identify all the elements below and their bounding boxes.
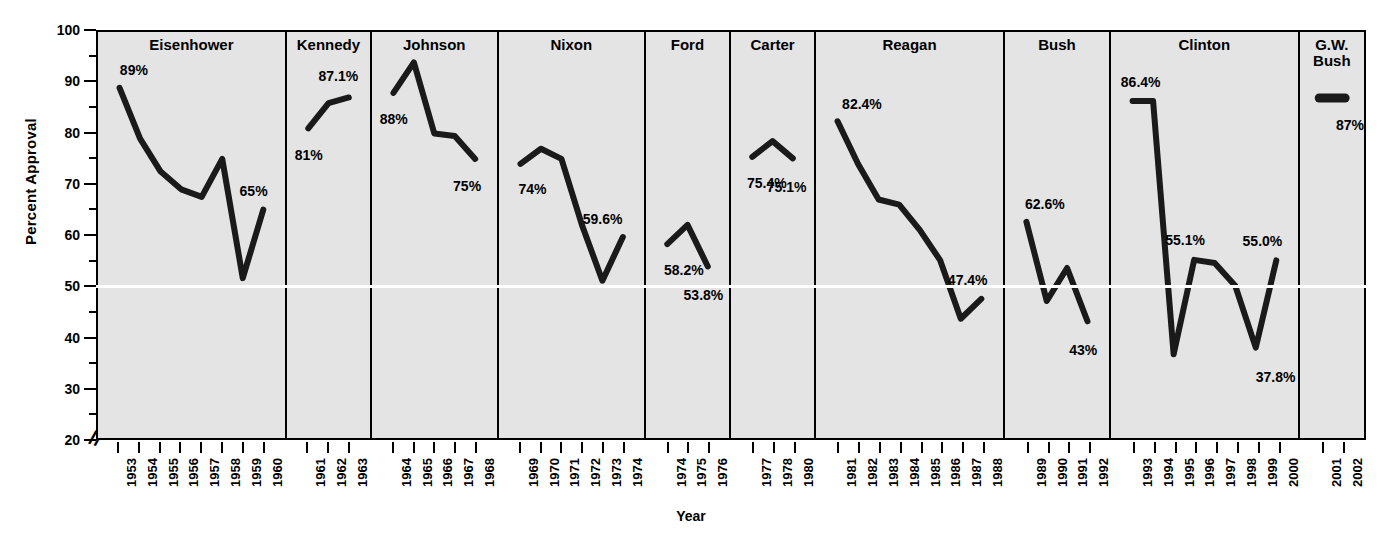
series-line — [372, 32, 497, 438]
x-tick — [983, 442, 985, 453]
panel-carter: Carter75.4%75.1% — [731, 32, 816, 438]
x-tick — [1175, 442, 1177, 453]
x-tick-label: 1982 — [865, 458, 880, 487]
y-tick-major — [84, 132, 96, 134]
y-tick-major — [84, 80, 96, 82]
y-tick-major — [84, 285, 96, 287]
x-tick-label: 1995 — [1182, 458, 1197, 487]
x-tick-label: 1975 — [694, 458, 709, 487]
panel-reagan: Reagan82.4%47.4% — [816, 32, 1005, 438]
x-tick-label: 1966 — [440, 458, 455, 487]
panel-bush: Bush62.6%43% — [1005, 32, 1111, 438]
panel-nixon: Nixon74%59.6% — [499, 32, 646, 438]
x-tick — [519, 442, 521, 453]
series-line — [1111, 32, 1298, 438]
x-tick — [540, 442, 542, 453]
x-tick-label: 1988 — [990, 458, 1005, 487]
x-tick-label: 1978 — [780, 458, 795, 487]
x-tick — [348, 442, 350, 453]
x-tick-label: 1983 — [886, 458, 901, 487]
y-tick-major — [84, 337, 96, 339]
x-tick — [581, 442, 583, 453]
x-tick — [921, 442, 923, 453]
x-tick-label: 2002 — [1350, 458, 1365, 487]
x-tick-label: 1969 — [526, 458, 541, 487]
series-line — [98, 32, 285, 438]
y-tick-label: 70 — [40, 176, 80, 192]
x-tick — [602, 442, 604, 453]
x-tick-label: 1985 — [928, 458, 943, 487]
y-tick-label: 50 — [40, 278, 80, 294]
chart-root: Percent Approval Year 203040506070809010… — [0, 0, 1382, 534]
x-tick — [858, 442, 860, 453]
series-line — [1300, 32, 1364, 438]
x-tick — [879, 442, 881, 453]
x-tick — [900, 442, 902, 453]
panel-clinton: Clinton86.4%55.1%55.0%37.8% — [1111, 32, 1300, 438]
y-tick-minor — [89, 208, 96, 210]
x-tick-label: 1965 — [420, 458, 435, 487]
x-tick-label: 1961 — [313, 458, 328, 487]
y-axis-title: Percent Approval — [22, 82, 39, 282]
x-tick-label: 1992 — [1096, 458, 1111, 487]
x-tick-label: 1968 — [482, 458, 497, 487]
x-tick — [941, 442, 943, 453]
x-tick-label: 1999 — [1265, 458, 1280, 487]
series-line — [499, 32, 644, 438]
panel-g-w-bush: G.W.Bush87% — [1300, 32, 1364, 438]
x-tick-label: 1994 — [1161, 458, 1176, 487]
x-tick-label: 1986 — [948, 458, 963, 487]
y-tick-minor — [89, 311, 96, 313]
x-tick — [1216, 442, 1218, 453]
x-tick — [200, 442, 202, 453]
gridline-50-highlight — [96, 285, 1366, 288]
x-tick — [221, 442, 223, 453]
x-tick — [179, 442, 181, 453]
x-tick-label: 1953 — [124, 458, 139, 487]
x-tick-label: 1962 — [334, 458, 349, 487]
y-tick-label: 80 — [40, 125, 80, 141]
x-tick-label: 2000 — [1286, 458, 1301, 487]
x-tick-label: 1959 — [249, 458, 264, 487]
x-tick — [1258, 442, 1260, 453]
x-tick-label: 2001 — [1329, 458, 1344, 487]
x-tick-label: 1973 — [609, 458, 624, 487]
x-tick — [1089, 442, 1091, 453]
x-tick-label: 1987 — [969, 458, 984, 487]
x-tick — [327, 442, 329, 453]
series-line — [287, 32, 370, 438]
y-tick-label: 20 — [40, 432, 80, 448]
x-tick-label: 1976 — [715, 458, 730, 487]
x-tick-label: 1980 — [801, 458, 816, 487]
x-tick — [242, 442, 244, 453]
x-tick-label: 1967 — [461, 458, 476, 487]
x-tick-label: 1972 — [588, 458, 603, 487]
y-tick-label: 90 — [40, 73, 80, 89]
x-tick — [1027, 442, 1029, 453]
x-tick — [962, 442, 964, 453]
x-tick — [1048, 442, 1050, 453]
panel-eisenhower: Eisenhower89%65% — [98, 32, 287, 438]
x-tick-label: 1960 — [270, 458, 285, 487]
x-tick-label: 1954 — [145, 458, 160, 487]
panel-johnson: Johnson88%75% — [372, 32, 499, 438]
x-tick — [1133, 442, 1135, 453]
x-tick-label: 1996 — [1202, 458, 1217, 487]
series-line — [731, 32, 814, 438]
x-tick-label: 1993 — [1140, 458, 1155, 487]
x-tick-label: 1957 — [207, 458, 222, 487]
x-tick — [1154, 442, 1156, 453]
series-line — [1005, 32, 1109, 438]
x-tick — [687, 442, 689, 453]
x-tick — [1068, 442, 1070, 453]
y-tick-minor — [89, 413, 96, 415]
x-tick — [837, 442, 839, 453]
y-tick-label: 60 — [40, 227, 80, 243]
x-tick — [263, 442, 265, 453]
x-tick-label: 1998 — [1244, 458, 1259, 487]
x-tick — [413, 442, 415, 453]
x-tick — [752, 442, 754, 453]
x-tick-label: 1958 — [228, 458, 243, 487]
x-tick — [392, 442, 394, 453]
y-tick-minor — [89, 106, 96, 108]
